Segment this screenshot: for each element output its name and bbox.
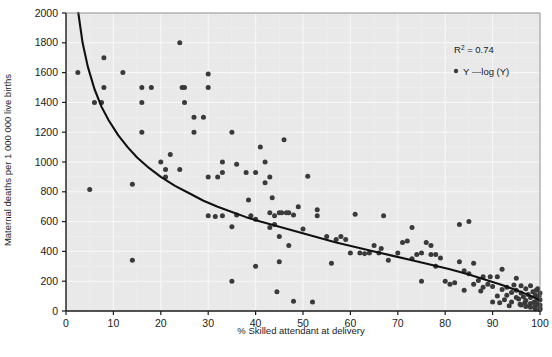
y-tick-label: 600	[40, 215, 58, 227]
x-tick-label: 10	[108, 317, 120, 329]
y-tick-label: 200	[40, 275, 58, 287]
x-axis-title: % Skilled attendant at delivery	[237, 325, 365, 336]
x-tick-label: 20	[155, 317, 167, 329]
x-tick-label: 80	[439, 317, 451, 329]
x-tick-label: 70	[392, 317, 404, 329]
legend-point-marker	[454, 69, 458, 73]
x-tick-label: 0	[63, 317, 69, 329]
chart-container: 0102030405060708090100 02004006008001000…	[0, 0, 552, 357]
y-tick-label: 2000	[35, 7, 59, 19]
x-tick-label: 100	[531, 317, 549, 329]
y-tick-label: 1800	[35, 36, 59, 48]
y-tick-label: 1600	[35, 66, 59, 78]
y-tick-label: 400	[40, 245, 58, 257]
y-tick-label: 1400	[35, 96, 59, 108]
y-axis-title: Maternal deaths per 1 000 000 live birth…	[2, 74, 13, 246]
y-tick-label: 800	[40, 185, 58, 197]
y-tick-label: 0	[52, 305, 58, 317]
r-squared-annotation: R2 = 0.74	[454, 44, 494, 56]
maternal-mortality-scatter-chart: 0102030405060708090100 02004006008001000…	[0, 0, 552, 357]
y-tick-label: 1000	[35, 156, 59, 168]
x-tick-label: 90	[487, 317, 499, 329]
legend-series-label: Y —log (Y)	[463, 66, 509, 77]
x-tick-label: 30	[202, 317, 214, 329]
y-tick-label: 1200	[35, 126, 59, 138]
